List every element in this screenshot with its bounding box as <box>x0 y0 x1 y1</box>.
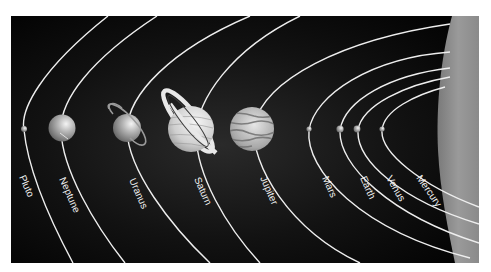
planet-venus <box>354 126 361 133</box>
planet-earth <box>336 125 343 132</box>
planet-pluto <box>21 126 27 132</box>
planet-mercury <box>379 126 384 131</box>
planet-mars <box>306 126 311 131</box>
planet-neptune <box>49 115 76 142</box>
solar-system-diagram: Pluto Neptune Uranus Saturn Jupiter Mars… <box>0 0 491 272</box>
